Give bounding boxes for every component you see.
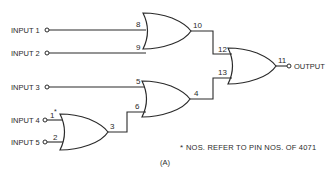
figure-caption: (A): [160, 158, 171, 167]
pin-6: 6: [135, 102, 140, 111]
input-3-label: INPUT 3: [11, 83, 40, 92]
input-2-label: INPUT 2: [11, 49, 40, 58]
or-gate-c: [60, 114, 108, 150]
or-gate-d: [228, 48, 276, 84]
or-gate-a: [143, 13, 191, 49]
pin-13: 13: [218, 68, 227, 77]
pin-10: 10: [193, 21, 202, 30]
pin-9: 9: [136, 43, 141, 52]
pin-11: 11: [278, 56, 287, 65]
footnote-text: NOS. REFER TO PIN NOS. OF 4071: [186, 143, 316, 152]
input-1-terminal: [45, 28, 49, 32]
input-5-terminal: [43, 140, 47, 144]
pin-1-asterisk: *: [54, 108, 57, 115]
input-5-label: INPUT 5: [11, 138, 40, 147]
pin-3: 3: [110, 122, 115, 131]
input-1-label: INPUT 1: [11, 26, 40, 35]
pin-8: 8: [136, 20, 141, 29]
pin-4: 4: [194, 89, 199, 98]
pin-2: 2: [53, 133, 58, 142]
output-label: OUTPUT: [294, 62, 325, 71]
or-gate-b: [142, 81, 190, 117]
output-terminal: [287, 64, 291, 68]
input-4-terminal: [43, 118, 47, 122]
input-2-terminal: [45, 51, 49, 55]
input-4-label: INPUT 4: [11, 116, 40, 125]
circuit-diagram: INPUT 1 INPUT 2 INPUT 3 INPUT 4 INPUT 5 …: [0, 0, 332, 175]
pin-5: 5: [136, 77, 141, 86]
input-3-terminal: [45, 85, 49, 89]
pin-12: 12: [218, 45, 227, 54]
footnote-marker: *: [180, 143, 183, 152]
